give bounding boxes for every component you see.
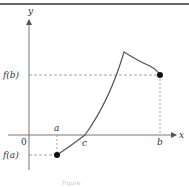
origin-label: 0 [21,137,27,147]
figure-caption: Figure [62,179,81,187]
tick-label-b: b [157,137,163,147]
function-curve [57,52,160,155]
tick-label-fa: f(a) [2,150,19,160]
function-diagram: y x 0 a c b f(b) f(a) Figure [0,0,189,187]
tick-label-c: c [82,138,87,148]
tick-label-fb: f(b) [2,70,20,80]
x-axis-label: x [179,130,184,140]
point-a-fa [54,152,60,158]
point-b-fb [157,72,163,78]
tick-label-a: a [54,123,59,133]
y-axis-label: y [27,6,34,16]
